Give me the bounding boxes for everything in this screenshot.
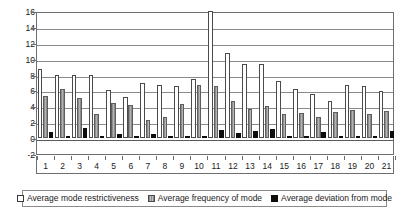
bar (134, 136, 139, 138)
x-axis-tick-label: 8 (162, 160, 167, 172)
bar (304, 136, 309, 138)
x-axis-tick-mark (310, 156, 311, 160)
bar (248, 109, 253, 138)
bar-group (173, 13, 190, 154)
bar (362, 86, 367, 138)
bar (38, 69, 43, 138)
bar (163, 117, 168, 138)
bar-group (139, 13, 156, 154)
y-axis-tick-mark (31, 107, 36, 108)
x-axis-tick-mark (54, 156, 55, 160)
bar (236, 133, 241, 138)
x-axis-tick-label: 17 (314, 160, 323, 172)
bar (180, 104, 185, 138)
x-axis-tick-label: 4 (94, 160, 99, 172)
bar-group (54, 13, 71, 154)
bar (117, 134, 122, 138)
bar (140, 83, 145, 138)
x-axis-tick-mark (156, 156, 157, 160)
bar (89, 75, 94, 139)
bar-group (71, 13, 88, 154)
legend-swatch-icon (271, 195, 278, 202)
bar (111, 103, 116, 138)
bar (287, 136, 292, 138)
bar (66, 136, 71, 138)
bar (94, 114, 99, 138)
bar-group (344, 13, 361, 154)
bar (208, 11, 213, 138)
bar (72, 75, 77, 139)
x-axis-tick-label: 7 (145, 160, 150, 172)
bar-group (207, 13, 224, 154)
legend-label: Average frequency of mode (158, 194, 262, 203)
bar (214, 86, 219, 138)
bar (49, 132, 54, 138)
x-axis-tick-label: 13 (245, 160, 254, 172)
legend-label: Average mode restrictiveness (27, 194, 139, 203)
bar (146, 120, 151, 138)
legend-item: Average mode restrictiveness (17, 194, 139, 203)
x-axis-tick-mark (276, 156, 277, 160)
legend-item: Average frequency of mode (148, 194, 262, 203)
x-axis-tick-mark (378, 156, 379, 160)
bar (270, 129, 275, 139)
x-axis-tick-mark (207, 156, 208, 160)
bar (202, 136, 207, 138)
x-axis-tick-mark (122, 156, 123, 160)
bar (151, 134, 156, 138)
bar-group (190, 13, 207, 154)
legend-swatch-icon (17, 195, 24, 202)
x-axis-tick-mark (88, 156, 89, 160)
bar-group (242, 13, 259, 154)
bar-group (293, 13, 310, 154)
bar-group (361, 13, 378, 154)
x-axis-tick-mark (139, 156, 140, 160)
x-axis-tick-label: 18 (331, 160, 340, 172)
x-axis-tick-label: 12 (228, 160, 237, 172)
x-axis-tick-label: 9 (180, 160, 185, 172)
bar (350, 110, 355, 138)
x-axis-tick-mark (173, 156, 174, 160)
bar (259, 64, 264, 138)
x-axis-tick-label: 1 (43, 160, 48, 172)
bar (174, 86, 179, 138)
bar (219, 130, 224, 138)
bar (384, 111, 389, 138)
y-axis-tick-mark (31, 28, 36, 29)
bar (77, 98, 82, 138)
bar (197, 85, 202, 138)
bar (128, 105, 133, 138)
x-axis-tick-mark (259, 156, 260, 160)
y-axis-tick-mark (31, 91, 36, 92)
bar (293, 89, 298, 138)
bar-group (156, 13, 173, 154)
x-axis-tick-label: 10 (194, 160, 203, 172)
bar (106, 90, 111, 138)
x-axis-tick-label: 20 (365, 160, 374, 172)
bar (123, 97, 128, 138)
bar (310, 94, 315, 138)
x-axis-tick-label: 11 (212, 160, 221, 172)
bar (333, 112, 338, 138)
bar (345, 85, 350, 138)
bar (100, 136, 105, 138)
bar (242, 64, 247, 138)
bar (316, 117, 321, 138)
y-axis-tick-mark (31, 139, 36, 140)
bar (265, 106, 270, 138)
bar-group (122, 13, 139, 154)
bar (390, 131, 395, 138)
bar (321, 132, 326, 138)
bar (185, 136, 190, 138)
bar-group (310, 13, 327, 154)
bar (83, 128, 88, 138)
x-axis-tick-label: 14 (262, 160, 271, 172)
x-axis: 123456789101112131415161718192021 (36, 156, 394, 174)
bar (282, 114, 287, 138)
chart-legend: Average mode restrictivenessAverage freq… (22, 190, 387, 207)
x-axis-tick-mark (293, 156, 294, 160)
x-axis-tick-label: 21 (382, 160, 391, 172)
y-axis-tick-mark (31, 44, 36, 45)
x-axis-tick-label: 3 (77, 160, 82, 172)
bar-group (225, 13, 242, 154)
